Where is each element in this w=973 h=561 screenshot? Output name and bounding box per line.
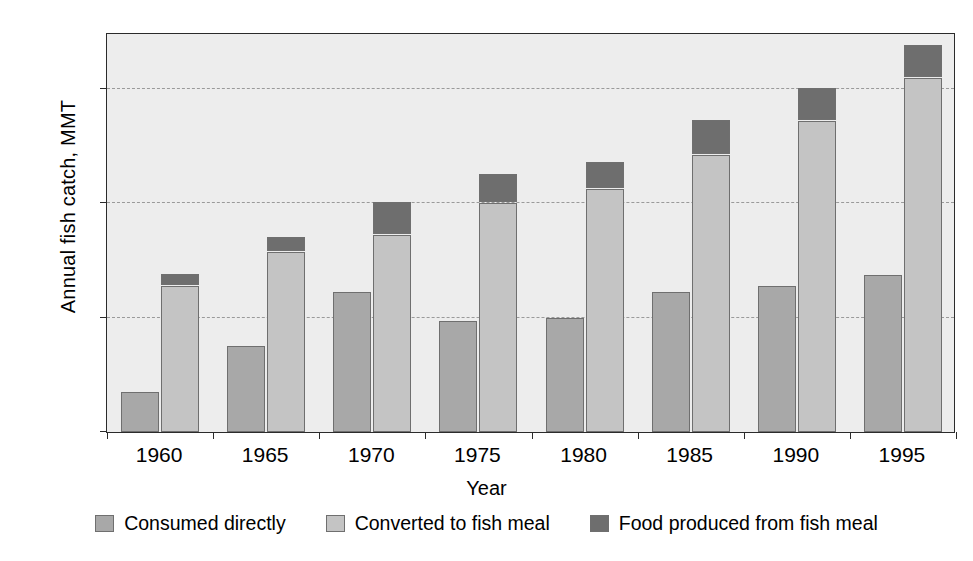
bar-converted-to-fish-meal-1990 <box>798 121 836 432</box>
bar-food-produced-from-fish-meal-1960 <box>161 274 199 285</box>
x-tick-1970 <box>319 432 320 439</box>
bar-consumed-directly-1965 <box>227 346 265 432</box>
bar-food-produced-from-fish-meal-1990 <box>798 88 836 119</box>
chart-legend: Consumed directly Converted to fish meal… <box>0 512 973 535</box>
x-tick-label-1980: 1980 <box>529 443 639 467</box>
bar-consumed-directly-1975 <box>439 321 477 432</box>
legend-item-food-produced-from-fish-meal: Food produced from fish meal <box>590 512 878 535</box>
y-tick-40 <box>100 202 107 203</box>
bar-converted-to-fish-meal-1980 <box>586 189 624 432</box>
bar-consumed-directly-1970 <box>333 292 371 432</box>
x-tick-1965 <box>213 432 214 439</box>
bar-converted-to-fish-meal-1995 <box>904 78 942 432</box>
x-axis-title: Year <box>0 477 973 500</box>
x-tick-1990 <box>744 432 745 439</box>
bar-food-produced-from-fish-meal-1995 <box>904 45 942 76</box>
fish-catch-chart: Annual fish catch, MMT Year Consumed dir… <box>0 0 973 561</box>
x-tick-label-1990: 1990 <box>741 443 851 467</box>
x-tick-label-1965: 1965 <box>210 443 320 467</box>
bar-food-produced-from-fish-meal-1985 <box>692 120 730 154</box>
bar-consumed-directly-1980 <box>546 318 584 432</box>
bar-consumed-directly-1995 <box>864 275 902 432</box>
legend-item-consumed-directly: Consumed directly <box>95 512 285 535</box>
y-tick-60 <box>100 88 107 89</box>
x-tick-label-1970: 1970 <box>316 443 426 467</box>
y-tick-0 <box>100 431 107 432</box>
legend-label-food-produced-from-fish-meal: Food produced from fish meal <box>619 512 878 535</box>
y-tick-20 <box>100 317 107 318</box>
legend-label-consumed-directly: Consumed directly <box>124 512 285 535</box>
x-tick-1985 <box>638 432 639 439</box>
bar-food-produced-from-fish-meal-1970 <box>373 202 411 233</box>
bar-converted-to-fish-meal-1975 <box>479 203 517 432</box>
x-tick-label-1960: 1960 <box>104 443 214 467</box>
legend-item-converted-to-fish-meal: Converted to fish meal <box>326 512 550 535</box>
x-tick-label-1995: 1995 <box>847 443 957 467</box>
bar-food-produced-from-fish-meal-1965 <box>267 237 305 251</box>
bar-food-produced-from-fish-meal-1980 <box>586 162 624 188</box>
bar-converted-to-fish-meal-1985 <box>692 155 730 432</box>
bar-food-produced-from-fish-meal-1975 <box>479 174 517 203</box>
plot-area <box>106 33 955 433</box>
bar-converted-to-fish-meal-1965 <box>267 252 305 432</box>
bar-converted-to-fish-meal-1960 <box>161 286 199 432</box>
x-tick-1975 <box>425 432 426 439</box>
y-axis-title: Annual fish catch, MMT <box>57 37 80 377</box>
legend-swatch-converted-to-fish-meal <box>326 515 345 532</box>
x-tick-1980 <box>532 432 533 439</box>
x-tick-1995 <box>850 432 851 439</box>
legend-swatch-food-produced-from-fish-meal <box>590 515 609 532</box>
legend-swatch-consumed-directly <box>95 515 114 532</box>
x-tick-label-1985: 1985 <box>635 443 745 467</box>
plot-inner <box>107 34 954 432</box>
bar-consumed-directly-1985 <box>652 292 690 432</box>
x-tick-1960 <box>107 432 108 439</box>
x-tick-label-1975: 1975 <box>422 443 532 467</box>
bar-converted-to-fish-meal-1970 <box>373 235 411 432</box>
bar-consumed-directly-1990 <box>758 286 796 432</box>
legend-label-converted-to-fish-meal: Converted to fish meal <box>355 512 550 535</box>
bar-consumed-directly-1960 <box>121 392 159 432</box>
x-tick-end <box>956 432 957 439</box>
